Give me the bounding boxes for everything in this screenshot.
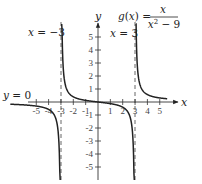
- y-tick-label: 3: [89, 58, 94, 68]
- x-tick-label: 1: [108, 106, 113, 116]
- function-numerator: x: [160, 3, 166, 15]
- x-axis-label: x: [181, 96, 188, 109]
- right-asymptote-label: x = 3: [110, 27, 138, 39]
- y-tick-label: -1: [86, 110, 94, 120]
- x-tick-label: 4: [145, 106, 150, 116]
- function-graph: -5-4-3-2-112345 54321-1-2-3-4-5 x y x = …: [0, 0, 202, 184]
- x-tick-label: -2: [70, 106, 78, 116]
- horizontal-asymptote-label: y = 0: [2, 89, 31, 101]
- y-tick-label: 2: [89, 71, 94, 81]
- x-tick-label: -3: [57, 106, 65, 116]
- y-tick-label: -3: [86, 136, 94, 146]
- x-tick-label: 3: [133, 106, 138, 116]
- y-tick-label: -5: [86, 162, 94, 172]
- y-tick-label: -2: [86, 123, 94, 133]
- y-tick-label: 4: [89, 45, 94, 55]
- left-asymptote-label: x = −3: [28, 26, 65, 38]
- x-tick-label: 5: [158, 106, 163, 116]
- curve-right-branch: [136, 24, 167, 99]
- x-tick-label: -5: [33, 106, 41, 116]
- y-axis-label: y: [94, 10, 102, 23]
- y-tick-label: 1: [89, 84, 94, 94]
- y-tick-label: -4: [86, 149, 94, 159]
- function-denominator: x2 − 9: [148, 18, 181, 30]
- function-label-lhs: g(x) =: [118, 10, 151, 22]
- y-tick-label: 5: [89, 32, 94, 42]
